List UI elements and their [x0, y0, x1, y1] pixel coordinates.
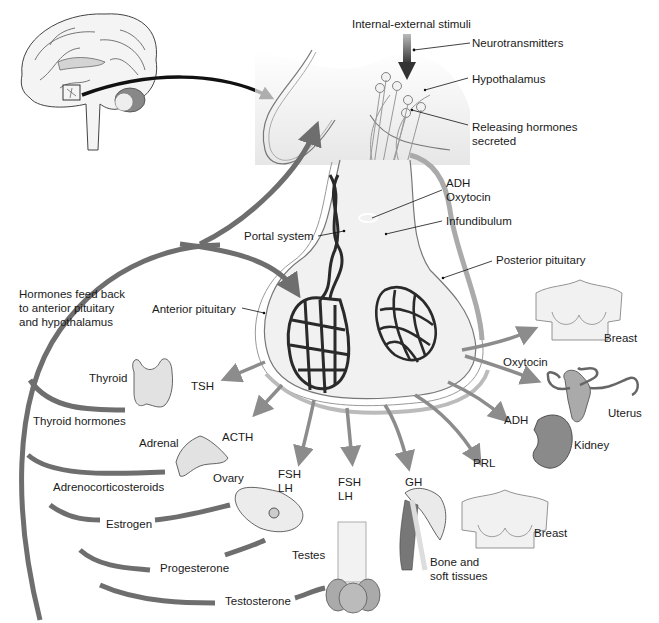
feedback-label: Hormones feed back to anterior pituitary… — [19, 287, 125, 329]
tsh-label: TSH — [191, 379, 214, 393]
acth-label: ACTH — [222, 430, 253, 444]
neurotransmitters-label: Neurotransmitters — [472, 36, 563, 50]
adh-label: ADH — [504, 413, 528, 427]
kidney-icon — [533, 415, 572, 468]
estrogen-label: Estrogen — [106, 517, 152, 531]
testosterone-label: Testosterone — [225, 594, 291, 608]
hypothalamus-label: Hypothalamus — [472, 72, 546, 86]
fsh-lh-label-1: FSH LH — [278, 467, 301, 495]
neurotransmitter-gradient — [403, 34, 411, 64]
thyroid-icon — [133, 359, 173, 407]
thyroid-hormones-label: Thyroid hormones — [33, 414, 126, 428]
releasing-hormones-label: Releasing hormones secreted — [472, 120, 577, 148]
breast-oxytocin-label: Breast — [604, 331, 637, 345]
prl-label: PRL — [473, 456, 495, 470]
adh-oxytocin-label: ADH Oxytocin — [446, 176, 491, 204]
bone-label: Bone and soft tissues — [430, 555, 488, 583]
anterior-pituitary-label: Anterior pituitary — [152, 302, 236, 316]
adrenal-label: Adrenal — [139, 436, 179, 450]
adrenocorticosteroids-label: Adrenocorticosteroids — [53, 480, 164, 494]
stimuli-label: Internal-external stimuli — [352, 17, 471, 31]
posterior-pituitary-label: Posterior pituitary — [496, 253, 585, 267]
thyroid-label: Thyroid — [89, 371, 127, 385]
kidney-label: Kidney — [574, 438, 609, 452]
breast-prl-label: Breast — [534, 526, 567, 540]
gh-label: GH — [405, 475, 422, 489]
testes-label: Testes — [292, 548, 325, 562]
fsh-lh-label-2: FSH LH — [338, 475, 361, 503]
ovary-label: Ovary — [213, 471, 244, 485]
progesterone-label: Progesterone — [160, 561, 229, 575]
uterus-label: Uterus — [608, 406, 642, 420]
pituitary-diagram: Internal-external stimuli Neurotransmitt… — [0, 0, 659, 623]
pituitary-gland — [265, 160, 476, 399]
portal-system-label: Portal system — [244, 229, 314, 243]
oxytocin-label: Oxytocin — [503, 355, 548, 369]
infundibulum-label: Infundibulum — [446, 214, 512, 228]
testes-icon — [326, 522, 380, 613]
